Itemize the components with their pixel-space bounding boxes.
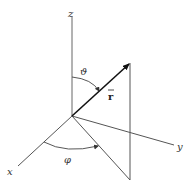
r-vector-label: r xyxy=(108,91,114,102)
y-axis-label: y xyxy=(176,141,183,152)
theta-arc xyxy=(72,77,99,91)
x-axis-label: x xyxy=(7,166,13,177)
diagram-svg: z x y ϑ φ r xyxy=(0,0,192,187)
phi-arc xyxy=(44,142,98,149)
spherical-coordinates-diagram: z x y ϑ φ r xyxy=(0,0,192,187)
phi-label: φ xyxy=(64,154,71,165)
projection-line xyxy=(72,116,130,180)
theta-label: ϑ xyxy=(80,66,87,77)
z-axis-label: z xyxy=(67,8,74,19)
y-axis xyxy=(72,116,174,145)
